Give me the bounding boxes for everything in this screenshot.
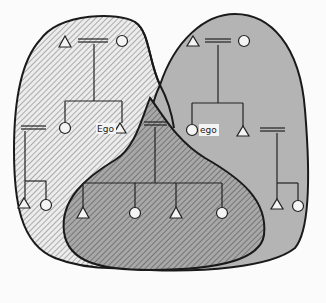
female-symbol bbox=[239, 36, 250, 47]
female-symbol bbox=[41, 200, 52, 211]
ego-label-left: Ego bbox=[97, 124, 114, 134]
ego-female-symbol bbox=[187, 125, 198, 136]
ego-label-right: ego bbox=[200, 125, 217, 135]
female-symbol bbox=[130, 208, 141, 219]
female-symbol bbox=[217, 208, 228, 219]
female-symbol bbox=[60, 123, 71, 134]
female-symbol bbox=[293, 201, 304, 212]
female-symbol bbox=[117, 36, 128, 47]
kinship-diagram: Ego ego bbox=[0, 0, 326, 303]
